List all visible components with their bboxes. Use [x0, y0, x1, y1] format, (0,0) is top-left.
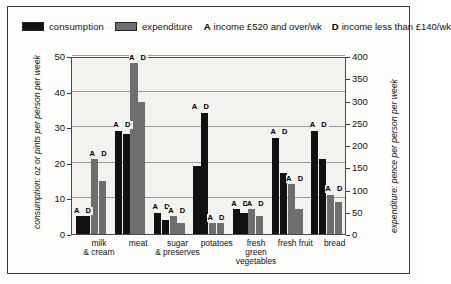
plot-area: A DA DA DA DA DA DA DA DA DA DA DA DA DA…	[71, 57, 346, 235]
gridline	[72, 55, 345, 56]
legend-key-a: A income £520 and over/wk	[204, 21, 322, 32]
y-tick-mark-right	[346, 213, 350, 214]
y-tick-right: 50	[352, 207, 378, 218]
legend-label-expenditure: expenditure	[142, 21, 193, 32]
bar-expenditure-a	[327, 195, 334, 234]
y-tick-right: 400	[352, 51, 378, 62]
y-tick-right: 150	[352, 162, 378, 173]
figure-frame: consumption expenditure A income £520 an…	[7, 6, 410, 274]
y-tick-mark-right	[346, 102, 350, 103]
group-marker-consumption: A D	[310, 121, 329, 129]
y-tick-left: 0	[41, 229, 65, 240]
legend-key-a-text: income £520 and over/wk	[214, 21, 322, 32]
bar-consumption-a	[311, 131, 318, 234]
group-marker-expenditure: A D	[247, 200, 266, 208]
bar-expenditure-d	[256, 216, 263, 234]
group-marker-expenditure: A D	[325, 185, 344, 193]
bar-expenditure-d	[295, 209, 302, 234]
group-marker-expenditure: A D	[207, 214, 226, 222]
y-tick-right: 200	[352, 140, 378, 151]
group-marker-consumption: A D	[113, 121, 132, 129]
legend-key-d-text: income less than £140/wk	[342, 21, 451, 32]
bar-expenditure-a	[130, 63, 137, 234]
chart-legend: consumption expenditure A income £520 an…	[22, 18, 414, 34]
y-tick-mark-right	[346, 79, 350, 80]
y-tick-mark-right	[346, 191, 350, 192]
bar-expenditure-d	[335, 202, 342, 234]
bar-expenditure-a	[248, 209, 255, 234]
bar-expenditure-a	[170, 216, 177, 234]
y-tick-mark-right	[346, 124, 350, 125]
y-tick-mark-left	[67, 235, 71, 236]
y-tick-mark-right	[346, 146, 350, 147]
bar-consumption-d	[240, 213, 247, 234]
bar-consumption-a	[115, 131, 122, 234]
bar-expenditure-d	[177, 223, 184, 234]
y-tick-right: 250	[352, 118, 378, 129]
bar-expenditure-d	[138, 102, 145, 234]
bar-consumption-a	[233, 209, 240, 234]
legend-label-consumption: consumption	[49, 21, 104, 32]
group-marker-expenditure: A D	[129, 54, 148, 62]
bar-consumption-d	[123, 134, 130, 234]
bar-consumption-d	[162, 220, 169, 234]
group-marker-expenditure: A D	[90, 150, 109, 158]
y-tick-left: 50	[41, 51, 65, 62]
y-tick-left: 40	[41, 87, 65, 98]
bar-consumption-d	[319, 159, 326, 234]
bar-expenditure-a	[288, 184, 295, 234]
bar-expenditure-a	[91, 159, 98, 234]
y-tick-left: 30	[41, 122, 65, 133]
legend-key-d-code: D	[332, 21, 339, 32]
expenditure-swatch-icon	[115, 22, 137, 31]
bar-consumption-a	[154, 213, 161, 234]
bar-expenditure-a	[209, 223, 216, 234]
y-tick-right: 300	[352, 96, 378, 107]
y-tick-left: 20	[41, 158, 65, 169]
bar-expenditure-d	[217, 223, 224, 234]
legend-item-consumption: consumption	[22, 21, 104, 32]
legend-key-a-code: A	[204, 21, 211, 32]
bar-consumption-a	[76, 216, 83, 234]
bar-expenditure-d	[99, 181, 106, 234]
y-tick-mark-right	[346, 235, 350, 236]
gridline	[72, 91, 345, 92]
group-marker-consumption: A D	[270, 128, 289, 136]
bar-consumption-d	[83, 216, 90, 234]
y-tick-right: 350	[352, 73, 378, 84]
bar-consumption-a	[193, 166, 200, 234]
y-axis-right-title: expenditure: pence per person per week	[389, 79, 399, 233]
consumption-swatch-icon	[22, 22, 44, 31]
group-marker-expenditure: A D	[286, 175, 305, 183]
legend-item-expenditure: expenditure	[115, 21, 193, 32]
y-tick-mark-right	[346, 168, 350, 169]
gridline	[72, 162, 345, 163]
y-tick-right: 100	[352, 185, 378, 196]
group-marker-consumption: A D	[74, 207, 93, 215]
gridline	[72, 197, 345, 198]
legend-key-d: D income less than £140/wk	[332, 21, 451, 32]
y-tick-mark-right	[346, 57, 350, 58]
group-marker-consumption: A D	[192, 103, 211, 111]
x-category-label: bread	[307, 239, 363, 248]
group-marker-expenditure: A D	[168, 207, 187, 215]
y-tick-left: 10	[41, 193, 65, 204]
bar-consumption-a	[272, 138, 279, 234]
